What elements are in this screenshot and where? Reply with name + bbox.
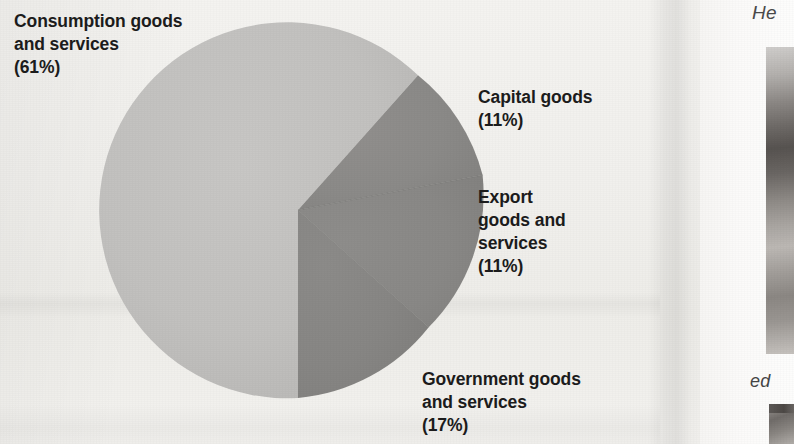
- pie-label-consumption: Consumption goods and services (61%): [14, 10, 264, 79]
- adjacent-page-caption-fragment: ed: [750, 371, 770, 392]
- pie-label-capital: Capital goods (11%): [478, 86, 648, 132]
- adjacent-page-header-fragment: He: [752, 2, 777, 24]
- adjacent-page-photo-fragment: [766, 47, 794, 354]
- pie-label-export: Export goods and services (11%): [478, 186, 628, 278]
- pie-chart-figure: Consumption goods and services (61%) Cap…: [0, 0, 660, 444]
- adjacent-page-lower-photo-band: [769, 404, 794, 413]
- pie-label-government: Government goods and services (17%): [422, 368, 662, 437]
